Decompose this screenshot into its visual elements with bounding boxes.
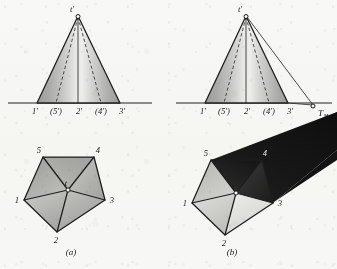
apex-vertex-dot-a (76, 15, 80, 19)
geometry-figure-svg: t' 1' (5') 2' (4') 3' t (0, 0, 337, 269)
panel-b-caption: (b) (227, 247, 238, 257)
plan-center-dot-a (66, 188, 70, 192)
plan-vertex-label-a-5: 5 (37, 145, 42, 155)
ground-label-b-5: (5') (218, 106, 230, 116)
panel-a-elevation: t' 1' (5') 2' (4') 3' (8, 4, 152, 116)
plan-vertex-label-a-1: 1 (15, 195, 19, 205)
panel-a-plan: t 1 2 3 4 5 (15, 145, 114, 245)
figure-root: t' 1' (5') 2' (4') 3' t (0, 0, 337, 269)
ground-label-b-3: 3' (286, 106, 293, 116)
plan-vertex-label-b-4: 4 (263, 148, 268, 158)
plan-vertex-label-a-2: 2 (54, 235, 59, 245)
elevation-triangle-a (37, 16, 120, 103)
ground-label-b-1: 1' (200, 106, 206, 116)
elevation-apex-label-b: t' (238, 4, 242, 14)
plan-vertex-label-b-5: 5 (204, 148, 209, 158)
elevation-apex-label-a: t' (70, 4, 74, 14)
ground-label-b-2: 2' (244, 106, 250, 116)
ground-label-a-2: 2' (76, 106, 82, 116)
ground-label-a-1: 1' (32, 106, 38, 116)
plan-vertex-label-b-3: 3 (277, 198, 282, 208)
panel-b-elevation: t' 1' (5') 2' (4') 3' T H (176, 4, 332, 119)
elevation-triangle-b (205, 16, 288, 103)
ground-label-a-3: 3' (118, 106, 125, 116)
ground-label-a-5: (5') (50, 106, 62, 116)
shadow-point-dot-b (311, 104, 315, 108)
apex-vertex-dot-b (244, 15, 248, 19)
ground-label-a-4: (4') (95, 106, 107, 116)
plan-vertex-label-a-3: 3 (109, 195, 114, 205)
panel-a-caption: (a) (66, 247, 77, 257)
ground-label-b-4: (4') (263, 106, 275, 116)
plan-center-dot-b (234, 191, 238, 195)
plan-vertex-label-b-1: 1 (183, 198, 187, 208)
plan-vertex-label-a-4: 4 (96, 145, 101, 155)
panel-b-plan: t 1 2 3 4 5 (183, 112, 337, 248)
